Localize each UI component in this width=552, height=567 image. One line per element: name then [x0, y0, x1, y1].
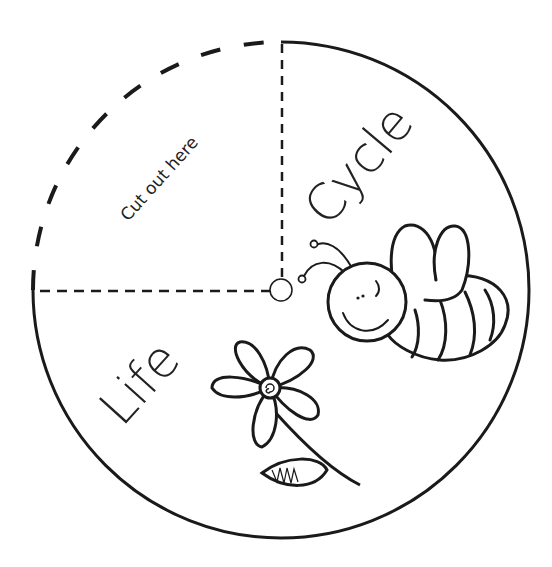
title-cycle: Cycle [293, 94, 425, 236]
life-cycle-wheel: Cut out here Cycle Life [0, 0, 552, 567]
bee-illustration [299, 225, 508, 360]
flower-illustration [212, 342, 360, 486]
title-life: Life [88, 330, 191, 436]
brad-hole[interactable] [270, 279, 292, 301]
cut-instruction-text: Cut out here [116, 132, 202, 224]
